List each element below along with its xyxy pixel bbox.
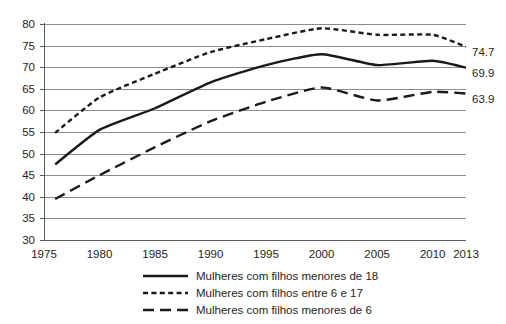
chart-canvas: 3035404550556065707580 19751980198519901… bbox=[0, 0, 506, 324]
legend-label-2: Mulheres com filhos menores de 6 bbox=[196, 304, 372, 316]
x-tick-label-2000: 2000 bbox=[309, 248, 335, 260]
series-line-1 bbox=[55, 28, 466, 133]
series-end-labels: 69.974.763.9 bbox=[472, 46, 494, 105]
chart-legend: Mulheres com filhos menores de 18Mulhere… bbox=[143, 270, 378, 316]
y-tick-label-40: 40 bbox=[22, 191, 35, 203]
y-tick-label-45: 45 bbox=[22, 169, 35, 181]
x-tick-label-2010: 2010 bbox=[420, 248, 446, 260]
y-tick-label-35: 35 bbox=[22, 212, 35, 224]
y-tick-label-75: 75 bbox=[22, 40, 35, 52]
end-label-69.9: 69.9 bbox=[472, 67, 494, 79]
x-tick-label-1975: 1975 bbox=[31, 248, 57, 260]
series-line-2 bbox=[55, 87, 466, 198]
end-label-74.7: 74.7 bbox=[472, 46, 494, 58]
x-tick-label-1990: 1990 bbox=[198, 248, 224, 260]
line-chart: 3035404550556065707580 19751980198519901… bbox=[0, 0, 506, 324]
y-tick-label-55: 55 bbox=[22, 126, 35, 138]
x-tick-label-1980: 1980 bbox=[87, 248, 113, 260]
legend-label-1: Mulheres com filhos entre 6 e 17 bbox=[196, 287, 363, 299]
data-series bbox=[55, 28, 466, 199]
x-tick-label-1995: 1995 bbox=[253, 248, 279, 260]
y-axis-tick-labels: 3035404550556065707580 bbox=[22, 18, 35, 246]
x-tick-label-1985: 1985 bbox=[142, 248, 168, 260]
gridlines bbox=[44, 25, 466, 241]
y-tick-label-65: 65 bbox=[22, 83, 35, 95]
y-tick-label-60: 60 bbox=[22, 104, 35, 116]
y-tick-label-30: 30 bbox=[22, 234, 35, 246]
legend-label-0: Mulheres com filhos menores de 18 bbox=[196, 270, 378, 282]
x-axis-tick-labels: 197519801985199019952000200520102013 bbox=[31, 248, 479, 260]
series-line-0 bbox=[55, 54, 466, 164]
x-tick-label-2005: 2005 bbox=[364, 248, 390, 260]
y-tick-label-80: 80 bbox=[22, 18, 35, 30]
y-tick-label-50: 50 bbox=[22, 148, 35, 160]
x-tick-label-2013: 2013 bbox=[453, 248, 479, 260]
end-label-63.9: 63.9 bbox=[472, 93, 494, 105]
y-tick-label-70: 70 bbox=[22, 61, 35, 73]
